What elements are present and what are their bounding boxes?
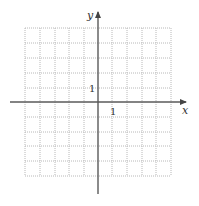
coordinate-plane: y x 1 1 [0,0,199,206]
x-tick-label: 1 [110,106,116,117]
y-axis-label: y [86,9,94,22]
x-axis-label: x [182,104,189,117]
y-tick-label: 1 [89,83,95,94]
